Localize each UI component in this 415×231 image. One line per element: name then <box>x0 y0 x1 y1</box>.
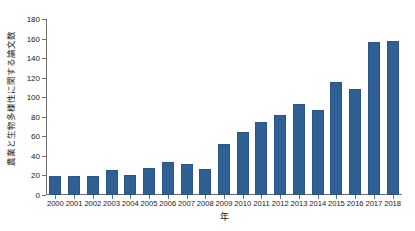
bar-group: 2007 <box>177 19 196 195</box>
bar <box>181 164 193 195</box>
x-axis-tick-label: 2003 <box>103 199 120 208</box>
y-axis-tick-label: 20 <box>31 171 40 180</box>
bar-group: 2012 <box>271 19 290 195</box>
bar-series: 2000200120022003200420052006200720082009… <box>46 19 402 195</box>
x-axis-tick-label: 2002 <box>84 199 101 208</box>
bar-group: 2016 <box>346 19 365 195</box>
bar-group: 2009 <box>215 19 234 195</box>
y-axis-tick-label: 0 <box>36 191 40 200</box>
y-axis-tick-mark <box>42 195 46 196</box>
bar-group: 2002 <box>83 19 102 195</box>
bar-group: 2001 <box>65 19 84 195</box>
bar <box>68 176 80 195</box>
x-axis-tick-label: 2006 <box>159 199 176 208</box>
x-axis-tick-label: 2007 <box>178 199 195 208</box>
x-axis-tick-label: 2005 <box>141 199 158 208</box>
bar-group: 2005 <box>140 19 159 195</box>
bar <box>106 170 118 195</box>
bar <box>312 110 324 195</box>
bar-group: 2000 <box>46 19 65 195</box>
x-axis-tick-label: 2012 <box>272 199 289 208</box>
bar <box>349 89 361 195</box>
bar <box>162 162 174 195</box>
bar <box>199 169 211 195</box>
y-axis-title: 農業と生物多様性に関する論文数 <box>4 0 18 196</box>
bar-group: 2014 <box>308 19 327 195</box>
bar-group: 2015 <box>327 19 346 195</box>
x-axis-tick-label: 2000 <box>47 199 64 208</box>
bar <box>330 82 342 195</box>
x-axis-tick-label: 2008 <box>197 199 214 208</box>
x-axis-tick-label: 2009 <box>216 199 233 208</box>
bar <box>87 176 99 195</box>
y-axis-tick-label: 180 <box>27 15 40 24</box>
bar <box>143 168 155 195</box>
x-axis-tick-label: 2011 <box>253 199 269 208</box>
bar-group: 2010 <box>233 19 252 195</box>
y-axis-tick-label: 160 <box>27 34 40 43</box>
x-axis-tick-label: 2014 <box>309 199 326 208</box>
y-axis-tick-label: 80 <box>31 112 40 121</box>
y-axis-tick-label: 120 <box>27 73 40 82</box>
bar-group: 2003 <box>102 19 121 195</box>
bar <box>124 175 136 195</box>
bar-chart-figure: 農業と生物多様性に関する論文数 020406080100120140160180… <box>0 0 415 231</box>
x-axis-tick-label: 2010 <box>234 199 251 208</box>
y-axis-tick-label: 60 <box>31 132 40 141</box>
bar-group: 2006 <box>158 19 177 195</box>
bar-group: 2008 <box>196 19 215 195</box>
bar-group: 2011 <box>252 19 271 195</box>
y-axis-tick-label: 100 <box>27 93 40 102</box>
bar <box>255 122 267 195</box>
x-axis-tick-label: 2013 <box>290 199 307 208</box>
y-axis-tick-label: 40 <box>31 151 40 160</box>
bar <box>293 104 305 195</box>
bar <box>368 42 380 195</box>
bar-group: 2004 <box>121 19 140 195</box>
x-axis-tick-label: 2015 <box>328 199 345 208</box>
x-axis-tick-label: 2018 <box>384 199 401 208</box>
x-axis-tick-label: 2016 <box>347 199 364 208</box>
x-axis-tick-label: 2004 <box>122 199 139 208</box>
plot-area: 020406080100120140160180 200020012002200… <box>46 19 402 195</box>
bar <box>49 176 61 195</box>
x-axis-tick-label: 2017 <box>365 199 382 208</box>
x-axis-tick-label: 2001 <box>66 199 83 208</box>
bar <box>237 132 249 195</box>
bar-group: 2017 <box>365 19 384 195</box>
bar-group: 2018 <box>383 19 402 195</box>
bar <box>274 115 286 195</box>
bar-group: 2013 <box>290 19 309 195</box>
x-axis-title: 年 <box>46 210 402 223</box>
y-axis-tick-label: 140 <box>27 54 40 63</box>
bar <box>387 41 399 195</box>
bar <box>218 144 230 195</box>
